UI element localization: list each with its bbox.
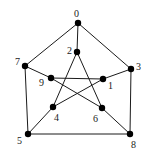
edge-0-2	[77, 23, 78, 52]
petersen-graph: 0123456789	[0, 0, 151, 152]
graph-diagram: 0123456789	[0, 0, 151, 152]
node-label-1: 1	[108, 80, 113, 91]
edge-2-4	[53, 52, 77, 107]
edge-5-7	[25, 66, 28, 134]
edge-0-3	[78, 23, 131, 69]
node-label-0: 0	[74, 8, 79, 19]
node-label-5: 5	[17, 135, 22, 146]
node-4	[50, 104, 56, 110]
node-3	[128, 66, 134, 72]
node-label-2: 2	[67, 45, 72, 56]
node-9	[48, 75, 54, 81]
node-2	[74, 49, 80, 55]
node-0	[75, 20, 81, 26]
node-8	[127, 131, 133, 137]
edge-3-1	[103, 69, 131, 79]
node-label-6: 6	[93, 113, 98, 124]
edge-8-6	[102, 108, 130, 134]
node-6	[99, 105, 105, 111]
edge-7-9	[25, 66, 51, 78]
node-label-4: 4	[54, 112, 59, 123]
edge-5-4	[28, 107, 53, 134]
node-label-8: 8	[131, 139, 136, 150]
node-label-7: 7	[15, 56, 20, 67]
node-label-3: 3	[136, 61, 141, 72]
edge-3-8	[130, 69, 131, 134]
node-1	[100, 76, 106, 82]
edge-2-6	[77, 52, 102, 108]
node-7	[22, 63, 28, 69]
edge-9-1	[51, 78, 103, 79]
node-5	[25, 131, 31, 137]
node-label-9: 9	[39, 77, 44, 88]
